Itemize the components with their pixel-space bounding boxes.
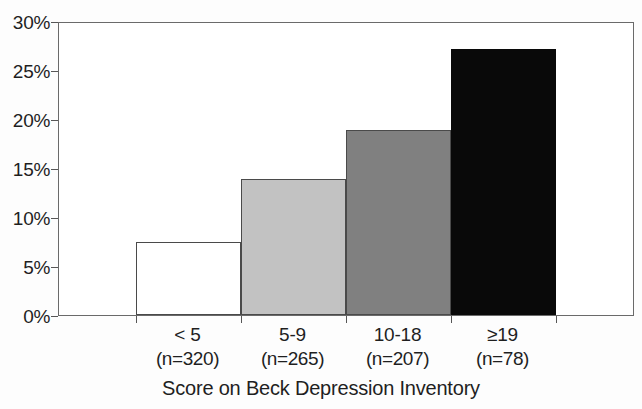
y-tick-mark-20 (51, 120, 58, 121)
y-tick-mark-25 (51, 71, 58, 72)
x-tick-mark-2 (346, 316, 347, 323)
y-tick-label-10: 10% (0, 209, 50, 228)
x-category-label: 10-18 (345, 323, 450, 347)
bar-5-9 (241, 179, 346, 315)
x-tick-mark-0 (136, 316, 137, 323)
y-tick-mark-10 (51, 218, 58, 219)
x-tick-mark-3 (451, 316, 452, 323)
bar-10-18 (346, 130, 451, 315)
y-tick-mark-30 (51, 22, 58, 23)
x-category-lt5: < 5 (n=320) (135, 323, 240, 371)
y-axis: 30% 25% 20% 15% 10% 5% 0% (0, 0, 50, 340)
x-category-label: ≥19 (450, 323, 555, 347)
x-tick-mark-1 (241, 316, 242, 323)
x-axis-labels: < 5 (n=320) 5-9 (n=265) 10-18 (n=207) ≥1… (58, 323, 634, 373)
y-tick-label-25: 25% (0, 62, 50, 81)
x-category-label: 5-9 (240, 323, 345, 347)
y-tick-label-15: 15% (0, 160, 50, 179)
bar-ge19 (451, 49, 556, 315)
y-tick-mark-15 (51, 169, 58, 170)
y-tick-label-5: 5% (0, 258, 50, 277)
y-tick-label-20: 20% (0, 111, 50, 130)
y-tick-label-30: 30% (0, 13, 50, 32)
y-tick-mark-0 (51, 316, 58, 317)
x-category-5-9: 5-9 (n=265) (240, 323, 345, 371)
y-tick-label-0: 0% (0, 307, 50, 326)
x-axis-title: Score on Beck Depression Inventory (0, 376, 642, 400)
x-category-label: < 5 (135, 323, 240, 347)
plot-area (58, 22, 634, 316)
x-category-n: (n=78) (450, 347, 555, 371)
x-category-n: (n=207) (345, 347, 450, 371)
bar-chart: 30% 25% 20% 15% 10% 5% 0% < 5 (n=320) 5-… (0, 0, 642, 409)
x-category-ge19: ≥19 (n=78) (450, 323, 555, 371)
bars-layer (59, 23, 633, 315)
x-category-10-18: 10-18 (n=207) (345, 323, 450, 371)
y-tick-mark-5 (51, 267, 58, 268)
x-category-n: (n=265) (240, 347, 345, 371)
x-category-n: (n=320) (135, 347, 240, 371)
x-tick-mark-4 (556, 316, 557, 323)
bar-lt5 (136, 242, 241, 315)
